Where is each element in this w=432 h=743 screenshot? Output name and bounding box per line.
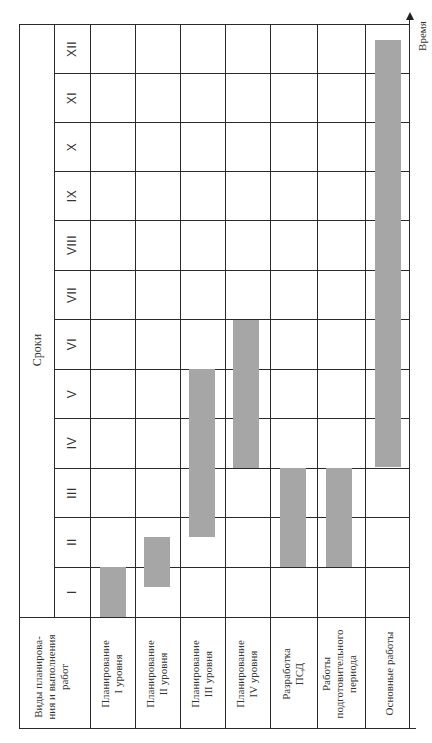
bar-planning-level-1 bbox=[100, 567, 126, 617]
row-sep bbox=[54, 369, 410, 370]
frame-bottom bbox=[19, 728, 416, 729]
time-axis-label: Время bbox=[414, 16, 430, 56]
grid-bottom bbox=[19, 617, 410, 618]
task-label-line: Работы bbox=[320, 624, 333, 724]
col-sep bbox=[135, 24, 136, 729]
col-sep bbox=[180, 24, 181, 729]
task-label-line: II уровня bbox=[157, 624, 170, 724]
task-label-planning-3: Планирование III уровня bbox=[189, 624, 217, 724]
task-label-line: периода bbox=[346, 624, 359, 724]
time-header-label: Сроки bbox=[29, 325, 45, 375]
period-label: II bbox=[64, 522, 80, 562]
task-label-line: IV уровня bbox=[247, 624, 260, 724]
row-sep bbox=[54, 418, 410, 419]
header-line: ния и выполнения bbox=[45, 622, 58, 732]
task-label-line: III уровня bbox=[202, 624, 215, 724]
frame-left bbox=[19, 24, 20, 729]
task-label-line: ПСД bbox=[293, 624, 306, 724]
col-sep bbox=[225, 24, 226, 729]
col-sep bbox=[317, 24, 318, 729]
bar-planning-level-3 bbox=[189, 369, 215, 537]
period-label: V bbox=[64, 374, 80, 414]
task-label-line: Основные работы bbox=[383, 624, 396, 724]
frame-top bbox=[19, 24, 410, 25]
time-axis-line bbox=[409, 18, 410, 729]
col-sep bbox=[90, 24, 91, 729]
task-label-preparatory: Работы подготовительного периода bbox=[320, 624, 362, 724]
bar-main-works bbox=[375, 40, 401, 467]
bar-planning-level-2 bbox=[144, 537, 170, 587]
row-sep bbox=[54, 73, 410, 74]
col-sep bbox=[270, 24, 271, 729]
task-label-planning-4: Планирование IV уровня bbox=[234, 624, 262, 724]
period-label: IV bbox=[64, 423, 80, 463]
header-line: Виды планирова- bbox=[32, 622, 45, 732]
row-sep bbox=[54, 517, 410, 518]
task-label-psd: Разработка ПСД bbox=[280, 624, 308, 724]
col-sep bbox=[365, 24, 366, 729]
bar-psd-development bbox=[280, 468, 306, 567]
period-label: X bbox=[64, 127, 80, 167]
period-label: VI bbox=[64, 324, 80, 364]
bar-preparatory-works bbox=[326, 468, 352, 567]
row-sep bbox=[54, 171, 410, 172]
period-label: XI bbox=[64, 78, 80, 118]
header-line: работ bbox=[58, 622, 71, 732]
row-sep bbox=[54, 122, 410, 123]
task-label-line: Планирование bbox=[144, 624, 157, 724]
row-sep bbox=[54, 270, 410, 271]
task-label-main-works: Основные работы bbox=[383, 624, 398, 724]
task-label-line: подготовительного bbox=[333, 624, 346, 724]
header-label-work-types: Виды планирова- ния и выполнения работ bbox=[32, 622, 72, 732]
period-label: VIII bbox=[64, 225, 80, 265]
period-label: III bbox=[64, 473, 80, 513]
task-label-line: Планирование bbox=[189, 624, 202, 724]
row-sep bbox=[54, 220, 410, 221]
gantt-chart: Сроки I II III IV V VI VII VIII IX X XI … bbox=[0, 0, 432, 743]
task-label-line: Разработка bbox=[280, 624, 293, 724]
period-label: IX bbox=[64, 176, 80, 216]
task-label-line: I уровня bbox=[112, 624, 125, 724]
bar-planning-level-4 bbox=[233, 320, 259, 468]
period-label: XII bbox=[64, 29, 80, 69]
task-label-planning-2: Планирование II уровня bbox=[144, 624, 172, 724]
row-sep bbox=[54, 468, 410, 469]
time-axis-arrow-icon bbox=[406, 12, 414, 20]
row-sep bbox=[54, 319, 410, 320]
col-sep bbox=[54, 24, 55, 618]
task-label-planning-1: Планирование I уровня bbox=[99, 624, 127, 724]
period-label: I bbox=[64, 572, 80, 612]
period-label: VII bbox=[64, 275, 80, 315]
task-label-line: Планирование bbox=[99, 624, 112, 724]
task-label-line: Планирование bbox=[234, 624, 247, 724]
